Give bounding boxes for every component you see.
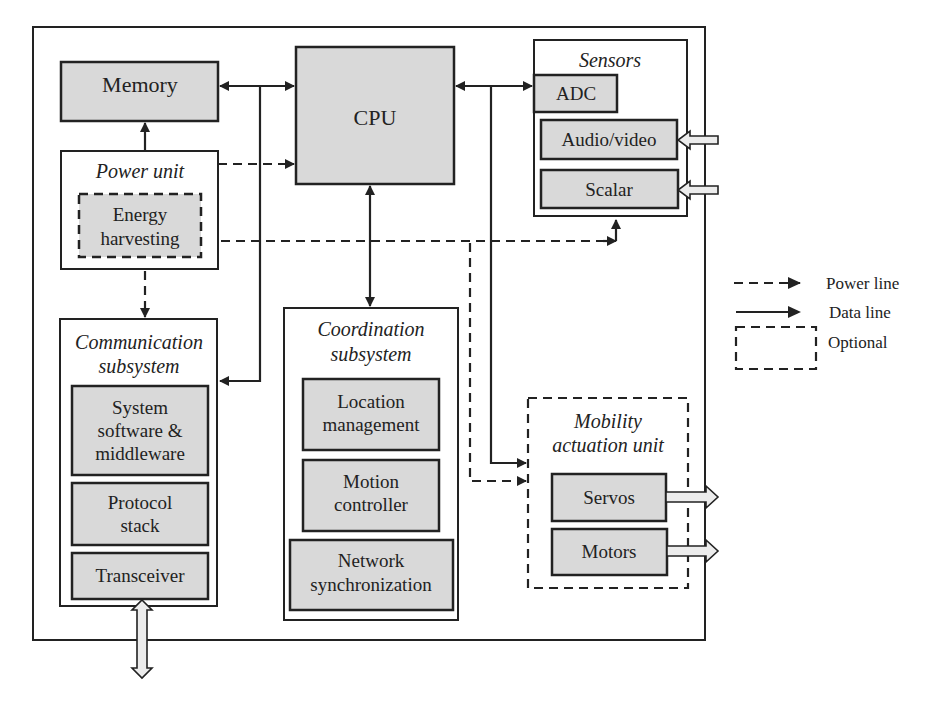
motors-output-arrow <box>667 540 718 562</box>
legend-data-line-label: Data line <box>829 303 891 322</box>
sensors-block: Sensors ADC Audio/video Scalar <box>534 40 687 216</box>
servos-output-arrow <box>666 486 718 508</box>
coordination-title-2: subsystem <box>330 343 411 366</box>
bus-to-communication-data-line <box>220 86 260 381</box>
memory-label: Memory <box>102 72 178 97</box>
location-management-label-1: Location <box>337 391 405 412</box>
location-management-label-2: management <box>322 414 420 435</box>
bus-to-mobility-data-line <box>491 86 526 463</box>
power-unit-block: Power unit Energy harvesting <box>61 151 218 269</box>
cpu-label: CPU <box>354 105 397 130</box>
adc-label: ADC <box>556 83 596 104</box>
sensor-node-architecture-diagram: Memory Power unit Energy harvesting CPU … <box>0 0 936 704</box>
motion-controller-label-1: Motion <box>343 471 399 492</box>
legend: Power line Data line Optional <box>734 274 899 369</box>
power-unit-title: Power unit <box>95 160 185 182</box>
network-sync-label-2: synchronization <box>310 574 432 595</box>
system-software-label-2: software & <box>98 420 183 441</box>
servos-label: Servos <box>583 487 635 508</box>
audio-video-label: Audio/video <box>562 129 657 150</box>
communication-title-2: subsystem <box>98 355 179 378</box>
system-software-label-1: System <box>112 397 168 418</box>
energy-harvesting-label-1: Energy <box>113 204 168 225</box>
mobility-actuation-unit-block: Mobility actuation unit Servos Motors <box>528 398 688 588</box>
scalar-label: Scalar <box>585 179 633 200</box>
communication-subsystem-block: Communication subsystem System software … <box>60 319 217 606</box>
legend-optional-sample <box>736 327 816 369</box>
power-to-mobility-line <box>470 243 526 481</box>
protocol-stack-label-2: stack <box>120 515 160 536</box>
protocol-stack-label-1: Protocol <box>108 492 172 513</box>
cpu-block: CPU <box>296 47 454 184</box>
legend-optional-label: Optional <box>828 333 888 352</box>
motion-controller-label-2: controller <box>334 494 409 515</box>
mobility-title-1: Mobility <box>573 410 642 433</box>
network-sync-label-1: Network <box>338 550 405 571</box>
coordination-title-1: Coordination <box>317 318 424 340</box>
mobility-title-2: actuation unit <box>552 434 664 456</box>
system-software-label-3: middleware <box>95 443 185 464</box>
legend-power-line-label: Power line <box>826 274 899 293</box>
communication-title-1: Communication <box>75 331 203 353</box>
transceiver-label: Transceiver <box>96 565 186 586</box>
coordination-subsystem-block: Coordination subsystem Location manageme… <box>284 308 458 620</box>
energy-harvesting-label-2: harvesting <box>100 228 180 249</box>
memory-block: Memory <box>61 62 218 121</box>
motors-label: Motors <box>582 541 637 562</box>
sensors-title: Sensors <box>579 49 641 71</box>
